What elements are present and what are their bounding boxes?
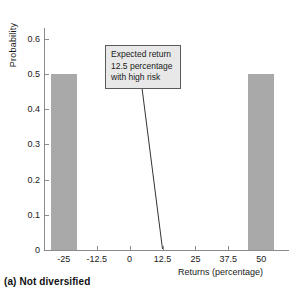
bar <box>51 74 77 250</box>
annotation-line-1: Expected return <box>111 49 175 61</box>
x-axis-tick-mark <box>97 246 98 251</box>
annotation-line-3: with high risk <box>111 72 175 84</box>
figure-caption: (a) Not diversified <box>4 276 90 287</box>
y-axis-tick-label: 0.5 <box>0 68 40 80</box>
x-axis-tick-mark <box>130 246 131 251</box>
y-axis-tick-label: 0.4 <box>0 103 40 115</box>
x-axis-tick-mark <box>195 246 196 251</box>
y-axis-tick-label: 0 <box>0 244 40 256</box>
y-axis-tick-mark <box>44 74 49 75</box>
bar <box>248 74 274 250</box>
y-axis-tick-mark <box>44 109 49 110</box>
x-axis-tick-label: -12.5 <box>86 254 107 264</box>
y-axis-tick-label: 0.1 <box>0 209 40 221</box>
x-axis-line <box>44 250 289 251</box>
y-axis-tick-mark <box>44 39 49 40</box>
y-axis-line <box>44 28 45 250</box>
x-axis-tick-label: 12.5 <box>154 254 172 264</box>
x-axis-tick-label: 37.5 <box>220 254 238 264</box>
y-axis-tick-label: 0.6 <box>0 33 40 45</box>
x-axis-tick-mark <box>163 246 164 251</box>
y-axis-tick-mark <box>44 250 49 251</box>
x-axis-tick-label: 50 <box>256 254 266 264</box>
annotation-box: Expected return 12.5 percentage with hig… <box>105 45 181 89</box>
y-axis-tick-label: 0.2 <box>0 174 40 186</box>
x-axis-tick-label: -25 <box>57 254 70 264</box>
figure-not-diversified: Probability Returns (percentage) 00.10.2… <box>0 0 300 292</box>
x-axis-tick-label: 25 <box>190 254 200 264</box>
y-axis-tick-mark <box>44 180 49 181</box>
x-axis-tick-label: 0 <box>127 254 132 264</box>
y-axis-tick-mark <box>44 215 49 216</box>
annotation-line-2: 12.5 percentage <box>111 61 175 73</box>
y-axis-tick-mark <box>44 144 49 145</box>
x-axis-title: Returns (percentage) <box>178 267 263 277</box>
y-axis-tick-label: 0.3 <box>0 138 40 150</box>
x-axis-tick-mark <box>228 246 229 251</box>
